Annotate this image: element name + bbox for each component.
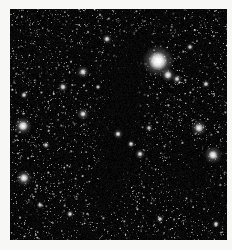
- image-viewer: Dark Nebula Star Field: [0, 0, 232, 250]
- sky-image-frame: [10, 9, 227, 240]
- star-field-canvas: [10, 9, 227, 240]
